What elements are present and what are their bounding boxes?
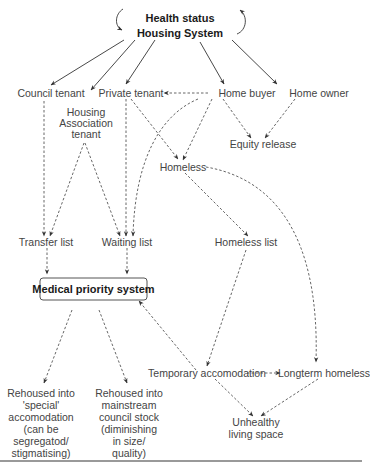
home-owner-label: Home owner xyxy=(289,87,349,99)
private-tenant-label: Private tenant xyxy=(99,87,164,99)
medical-priority-label: Medical priority system xyxy=(32,283,154,295)
mainstream-label-4: (diminishing xyxy=(101,423,157,435)
edge-to-home-buyer xyxy=(200,42,224,84)
edge-medical-to-special xyxy=(44,310,72,383)
edge-owner-to-equity xyxy=(265,99,295,138)
cycle-arrow-right xyxy=(237,10,245,34)
edge-assoc-to-waiting xyxy=(85,143,120,236)
unhealthy-label-2: living space xyxy=(229,428,284,440)
edge-homeless-to-list xyxy=(185,173,248,236)
edge-to-council xyxy=(51,40,124,85)
edge-homeless-to-longterm xyxy=(206,167,316,362)
solid-edges xyxy=(51,40,277,90)
edge-to-home-owner xyxy=(232,40,277,84)
waiting-list-label: Waiting list xyxy=(102,236,152,248)
edge-to-housing-assoc xyxy=(91,40,135,90)
edge-assoc-to-transfer xyxy=(50,143,84,236)
home-buyer-label: Home buyer xyxy=(218,87,276,99)
longterm-homeless-label: Longterm homeless xyxy=(278,367,370,379)
housing-association-label-3: tenant xyxy=(71,128,100,140)
special-label-6: stigmatising) xyxy=(12,447,71,459)
health-housing-cycle: Health status Housing System xyxy=(116,9,245,39)
housing-system-label: Housing System xyxy=(137,27,223,39)
edge-longterm-to-unhealthy xyxy=(261,379,318,416)
edge-buyer-to-equity xyxy=(223,99,251,138)
special-label-3: accomodation xyxy=(8,411,74,423)
node-labels: Council tenant Private tenant Home buyer… xyxy=(7,87,370,459)
edge-medical-to-mainstream xyxy=(99,310,127,383)
housing-health-diagram: Health status Housing System Medic xyxy=(0,0,370,463)
edge-to-private xyxy=(126,40,155,84)
mainstream-label-2: mainstream xyxy=(102,399,157,411)
edge-temporary-to-medical xyxy=(139,301,196,370)
edge-temporary-to-unhealthy xyxy=(215,379,253,416)
health-status-label: Health status xyxy=(145,12,214,24)
mainstream-label-1: Rehoused into xyxy=(95,387,163,399)
special-label-4: (can be xyxy=(23,423,58,435)
mainstream-label-6: quality) xyxy=(112,447,146,459)
special-label-5: segregatod/ xyxy=(13,435,69,447)
homeless-list-label: Homeless list xyxy=(215,236,278,248)
edge-buyer-to-homeless xyxy=(183,99,212,160)
mainstream-label-3: council stock xyxy=(99,411,160,423)
cycle-arrow-left xyxy=(116,9,123,30)
special-label-1: Rehoused into xyxy=(7,387,75,399)
mainstream-label-5: in size/ xyxy=(113,435,146,447)
transfer-list-label: Transfer list xyxy=(19,236,74,248)
special-label-2: 'special' xyxy=(23,399,60,411)
equity-release-label: Equity release xyxy=(230,138,297,150)
unhealthy-label-1: Unhealthy xyxy=(232,416,280,428)
council-tenant-label: Council tenant xyxy=(17,87,84,99)
edge-private-to-homeless xyxy=(131,99,178,159)
temporary-accomodation-label: Temporary accomodation xyxy=(148,367,266,379)
homeless-label: Homeless xyxy=(160,161,207,173)
edge-list-to-temporary xyxy=(207,250,246,366)
